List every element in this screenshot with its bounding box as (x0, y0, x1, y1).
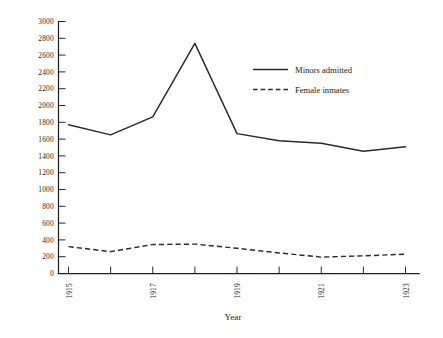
x-tick-label-1919: 1919 (233, 283, 242, 299)
y-tick-label-2000: 2000 (38, 101, 54, 110)
y-tick-label-1200: 1200 (38, 168, 54, 177)
y-tick-label-2800: 2800 (38, 34, 54, 43)
x-tick-label-1915: 1915 (65, 283, 74, 299)
legend-label-minors-admitted: Minors admitted (295, 65, 353, 75)
y-tick-label-2400: 2400 (38, 68, 54, 77)
y-tick-label-1400: 1400 (38, 152, 54, 161)
y-tick-label-2600: 2600 (38, 51, 54, 60)
x-axis-title: Year (225, 312, 242, 322)
x-tick-label-1921: 1921 (317, 283, 326, 299)
x-tick-label-1917: 1917 (149, 283, 158, 299)
y-tick-label-3000: 3000 (38, 17, 54, 26)
chart-figure: 0200400600800100012001400160018002000220… (0, 0, 443, 338)
y-tick-label-800: 800 (42, 202, 54, 211)
y-tick-label-1600: 1600 (38, 135, 54, 144)
line-chart: 0200400600800100012001400160018002000220… (0, 0, 443, 338)
y-tick-label-0: 0 (50, 269, 54, 278)
y-tick-label-2200: 2200 (38, 84, 54, 93)
y-tick-label-1800: 1800 (38, 118, 54, 127)
y-tick-label-600: 600 (42, 219, 54, 228)
y-tick-label-400: 400 (42, 236, 54, 245)
x-tick-label-1923: 1923 (402, 283, 411, 299)
y-tick-label-200: 200 (42, 252, 54, 261)
y-tick-label-1000: 1000 (38, 185, 54, 194)
legend-label-female-inmates: Female inmates (295, 85, 350, 95)
